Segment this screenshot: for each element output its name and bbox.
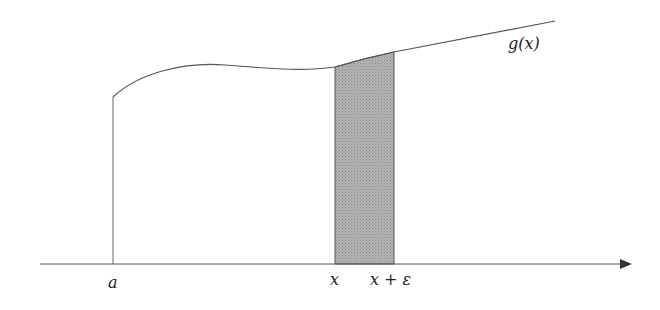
- x-axis-arrow-icon: [620, 259, 632, 269]
- shaded-strip: [335, 52, 394, 264]
- integral-diagram: g(x) a x x + ε: [0, 0, 660, 310]
- function-curve: [113, 21, 555, 97]
- tick-label-x-plus-eps: x + ε: [370, 270, 411, 289]
- diagram-canvas: [0, 0, 660, 310]
- function-label: g(x): [508, 34, 540, 53]
- tick-label-x: x: [330, 270, 339, 289]
- tick-label-a: a: [108, 273, 118, 292]
